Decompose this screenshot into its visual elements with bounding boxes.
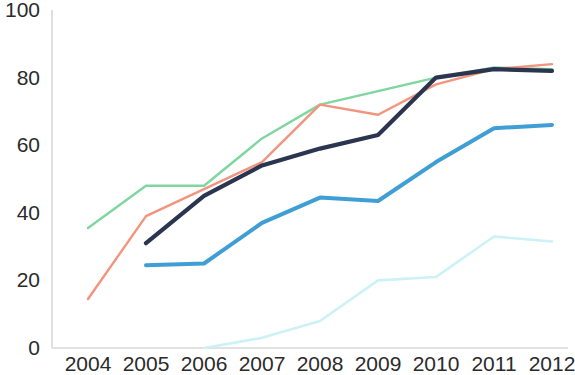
series-navy xyxy=(146,69,552,243)
chart-canvas: 020406080100 200420052006200720082009201… xyxy=(0,0,575,375)
x-axis-tick-labels: 200420052006200720082009201020112012 xyxy=(65,352,575,375)
y-axis-tick-label: 100 xyxy=(5,0,40,21)
y-axis-tick-label: 0 xyxy=(28,336,40,359)
x-axis-tick-label: 2009 xyxy=(355,352,402,375)
y-axis-tick-label: 40 xyxy=(17,201,40,224)
x-axis-tick-label: 2010 xyxy=(413,352,460,375)
y-axis-tick-label: 60 xyxy=(17,133,40,156)
y-axis-tick-label: 80 xyxy=(17,66,40,89)
x-axis-tick-label: 2008 xyxy=(297,352,344,375)
x-axis-tick-label: 2011 xyxy=(471,352,516,375)
line-chart: 020406080100 200420052006200720082009201… xyxy=(0,0,575,375)
chart-series-lines xyxy=(88,64,552,348)
x-axis-tick-label: 2004 xyxy=(65,352,112,375)
x-axis-tick-label: 2005 xyxy=(123,352,170,375)
y-axis-tick-labels: 020406080100 xyxy=(5,0,40,359)
x-axis-tick-label: 2012 xyxy=(529,352,575,375)
series-cyan xyxy=(204,236,552,348)
x-axis-tick-label: 2007 xyxy=(239,352,286,375)
y-axis-tick-label: 20 xyxy=(17,268,40,291)
x-axis-tick-label: 2006 xyxy=(181,352,228,375)
chart-axes xyxy=(52,10,568,348)
